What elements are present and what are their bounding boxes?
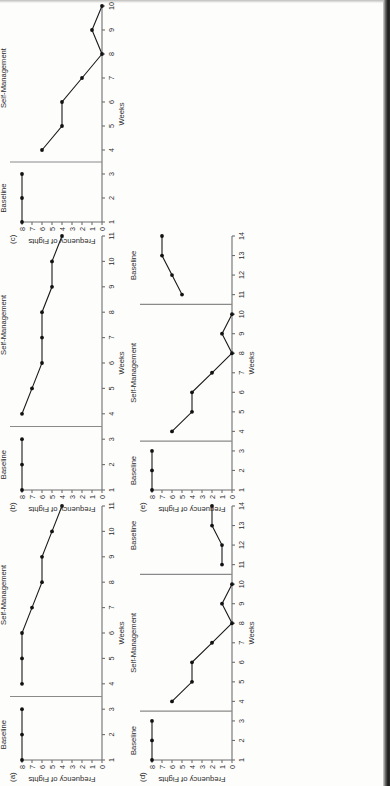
scanned-page: 012345678Frequency of Fights123456789101… [0, 0, 390, 786]
chart-panel-d: 012345678Frequency of Fights123456789101… [130, 500, 258, 786]
chart-panel-c: 012345678Frequency of Fights12345678910W… [0, 0, 128, 248]
data-point [20, 463, 24, 467]
data-point [20, 437, 24, 441]
panel-letter-c: (c) [8, 235, 17, 244]
x-axis-tick-label: 8 [107, 52, 116, 56]
x-axis-tick-label: 5 [107, 386, 116, 390]
x-axis-tick-label: 7 [107, 606, 116, 610]
x-axis-tick-label: 10 [107, 2, 116, 10]
x-axis-tick-label: 10 [107, 527, 116, 535]
x-axis-tick-label: 1 [237, 758, 246, 762]
x-axis-tick-label: 3 [237, 719, 246, 723]
x-axis-tick-label: 10 [237, 580, 246, 588]
panel-letter-d: (d) [138, 772, 147, 782]
x-axis-tick-label: 5 [237, 410, 246, 414]
data-point [80, 76, 84, 80]
data-point [160, 254, 164, 258]
y-axis-tick-label: 6 [38, 495, 47, 499]
x-axis-tick-label: 5 [107, 656, 116, 660]
y-axis-tick-label: 2 [78, 227, 87, 231]
data-point [50, 285, 54, 289]
data-point [150, 758, 154, 762]
x-axis-tick-label: 4 [237, 699, 246, 703]
panel-letter-b: (b) [8, 502, 17, 512]
x-axis-tick-label: 2 [107, 196, 116, 200]
x-axis-title: Weeks [117, 102, 126, 125]
data-point [20, 758, 24, 762]
x-axis-tick-label: 6 [107, 631, 116, 635]
x-axis-tick-label: 2 [107, 463, 116, 467]
y-axis-tick-label: 5 [48, 765, 57, 769]
x-axis-tick-label: 1 [237, 488, 246, 492]
y-axis-tick-label: 6 [38, 227, 47, 231]
data-point [20, 172, 24, 176]
data-point [220, 332, 224, 336]
x-axis-tick-label: 6 [107, 361, 116, 365]
x-axis-tick-label: 9 [107, 285, 116, 289]
phase-label: Baseline [0, 720, 8, 749]
data-point [50, 260, 54, 264]
data-point [60, 100, 64, 104]
chart-panel-e: 012345678Frequency of Fights123456789101… [130, 230, 258, 516]
y-axis-tick-label: 5 [48, 495, 57, 499]
data-point [210, 524, 214, 528]
y-axis-tick-label: 1 [88, 495, 97, 499]
y-axis-tick-label: 0 [98, 765, 107, 769]
x-axis-tick-label: 13 [237, 252, 246, 260]
x-axis-tick-label: 2 [237, 738, 246, 742]
x-axis-tick-label: 8 [107, 310, 116, 314]
chart-canvas-a: 012345678Frequency of Fights123456789101… [0, 500, 128, 786]
x-axis-tick-label: 7 [237, 641, 246, 645]
x-axis-tick-label: 9 [237, 332, 246, 336]
data-point [40, 361, 44, 365]
y-axis-tick-label: 6 [38, 765, 47, 769]
data-point [190, 680, 194, 684]
y-axis-tick-label: 1 [88, 227, 97, 231]
y-axis-tick-label: 5 [48, 227, 57, 231]
phase-label: Self-Management [0, 294, 8, 355]
x-axis-tick-label: 11 [237, 561, 246, 568]
data-point [20, 682, 24, 686]
x-axis-tick-label: 9 [107, 555, 116, 559]
phase-label: Self-Management [129, 342, 138, 403]
data-point [20, 657, 24, 661]
phase-label: Baseline [129, 251, 138, 280]
x-axis-tick-label: 12 [237, 541, 246, 549]
data-point [190, 660, 194, 664]
data-point [40, 555, 44, 559]
data-point [20, 488, 24, 492]
y-axis-tick-label: 1 [218, 495, 227, 499]
data-point [40, 148, 44, 152]
data-point [180, 293, 184, 297]
x-axis-tick-label: 5 [107, 124, 116, 128]
data-point [20, 707, 24, 711]
phase-label: Baseline [0, 183, 8, 212]
data-point [60, 124, 64, 128]
x-axis-tick-label: 14 [237, 232, 246, 240]
x-axis-tick-label: 2 [107, 733, 116, 737]
x-axis-tick-label: 9 [107, 28, 116, 32]
chart-canvas-d: 012345678Frequency of Fights123456789101… [130, 500, 258, 786]
data-point [20, 733, 24, 737]
y-axis-tick-label: 6 [168, 765, 177, 769]
phase-label: Self-Management [0, 564, 8, 625]
data-point [170, 429, 174, 433]
data-point [50, 530, 54, 534]
y-axis-tick-label: 8 [148, 765, 157, 769]
y-axis-tick-label: 7 [158, 495, 167, 499]
x-axis-tick-label: 8 [107, 580, 116, 584]
y-axis-tick-label: 0 [228, 765, 237, 769]
x-axis-tick-label: 4 [107, 682, 116, 686]
x-axis-tick-label: 1 [107, 758, 116, 762]
y-axis-title: Frequency of Fights [28, 237, 95, 246]
x-axis-tick-label: 3 [237, 449, 246, 453]
data-point [150, 488, 154, 492]
y-axis-title: Frequency of Fights [28, 775, 95, 784]
data-point [20, 220, 24, 224]
y-axis-tick-label: 3 [68, 227, 77, 231]
y-axis-tick-label: 2 [78, 765, 87, 769]
chart-canvas-c: 012345678Frequency of Fights12345678910W… [0, 0, 128, 248]
data-point [150, 719, 154, 723]
y-axis-tick-label: 8 [18, 765, 27, 769]
y-axis-tick-label: 3 [198, 495, 207, 499]
